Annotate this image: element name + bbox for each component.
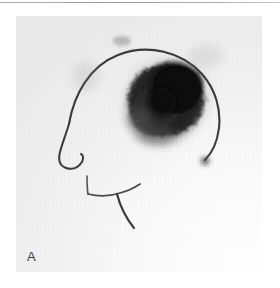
figure-page: A (0, 0, 280, 288)
philtrum-stroke (87, 176, 88, 194)
lateral-head-scan-image (16, 16, 262, 272)
scan-image-panel-a: A (16, 16, 262, 272)
page-top-divider (0, 2, 280, 3)
vertex-artifact-smudge (113, 36, 131, 46)
occiput-terminal-mark (201, 157, 210, 165)
neck-contour (117, 194, 134, 228)
nose-tip-contour (66, 154, 83, 169)
forehead-nasal-bridge-contour (59, 124, 69, 168)
chin-jaw-contour (88, 184, 140, 196)
panel-label-a: A (27, 250, 36, 263)
